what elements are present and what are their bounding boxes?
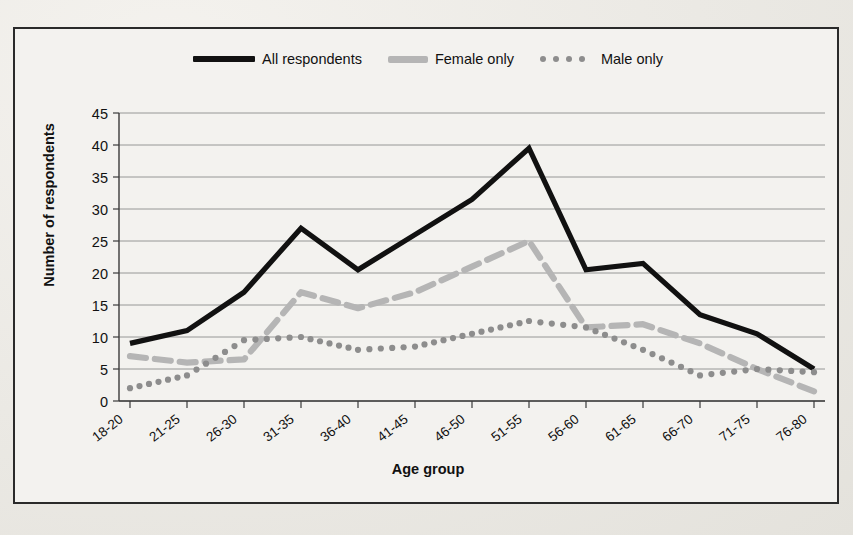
data-point-dot bbox=[526, 318, 532, 324]
data-point-dot bbox=[743, 367, 749, 373]
data-point-dot bbox=[241, 337, 247, 343]
data-point-dot bbox=[222, 349, 228, 355]
data-point-dot bbox=[687, 368, 693, 374]
x-tick-label: 41-45 bbox=[374, 412, 410, 445]
data-point-dot bbox=[412, 344, 418, 350]
x-tick-label: 36-40 bbox=[317, 412, 353, 445]
data-point-dot bbox=[193, 366, 199, 372]
data-point-dot bbox=[212, 355, 218, 361]
y-tick-label: 20 bbox=[92, 266, 108, 282]
data-point-dot bbox=[174, 374, 180, 380]
x-tick-label: 71-75 bbox=[716, 412, 752, 445]
data-point-dot bbox=[155, 379, 161, 385]
data-point-dot bbox=[478, 329, 484, 335]
data-point-dot bbox=[184, 372, 190, 378]
data-point-dot bbox=[583, 324, 589, 330]
data-point-dot bbox=[572, 323, 578, 329]
data-point-dot bbox=[231, 343, 237, 349]
data-point-dot bbox=[287, 335, 293, 341]
data-point-dot bbox=[431, 339, 437, 345]
data-point-dot bbox=[298, 334, 304, 340]
data-point-dot bbox=[275, 335, 281, 341]
data-point-dot bbox=[326, 340, 332, 346]
y-tick-label: 15 bbox=[92, 298, 108, 314]
data-point-dot bbox=[203, 361, 209, 367]
data-point-dot bbox=[592, 328, 598, 334]
data-point-dot bbox=[469, 331, 475, 337]
data-point-dot bbox=[507, 322, 513, 328]
data-point-dot bbox=[516, 320, 522, 326]
x-tick-label: 46-50 bbox=[431, 412, 467, 445]
data-point-dot bbox=[165, 377, 171, 383]
data-point-dot bbox=[252, 336, 258, 342]
data-point-dot bbox=[389, 345, 395, 351]
data-point-dot bbox=[630, 343, 636, 349]
x-tick-label: 51-55 bbox=[488, 412, 524, 445]
data-point-dot bbox=[777, 367, 783, 373]
data-point-dot bbox=[264, 336, 270, 342]
data-point-dot bbox=[136, 383, 142, 389]
x-tick-label: 21-25 bbox=[146, 412, 182, 445]
data-point-dot bbox=[754, 366, 760, 372]
x-tick-label: 76-80 bbox=[773, 412, 809, 445]
data-point-dot bbox=[450, 335, 456, 341]
x-tick-label: 61-65 bbox=[602, 412, 638, 445]
data-point-dot bbox=[731, 368, 737, 374]
x-tick-label: 18-20 bbox=[89, 412, 125, 445]
y-tick-label: 35 bbox=[92, 170, 108, 186]
data-point-dot bbox=[317, 338, 323, 344]
data-point-dot bbox=[307, 336, 313, 342]
y-tick-label: 0 bbox=[100, 394, 108, 410]
data-point-dot bbox=[421, 341, 427, 347]
y-tick-label: 45 bbox=[92, 106, 108, 122]
data-point-dot bbox=[549, 320, 555, 326]
data-point-dot bbox=[611, 336, 617, 342]
data-point-dot bbox=[146, 381, 152, 387]
data-point-dot bbox=[602, 332, 608, 338]
data-point-dot bbox=[336, 342, 342, 348]
data-point-dot bbox=[459, 333, 465, 339]
data-point-dot bbox=[345, 345, 351, 351]
data-point-dot bbox=[127, 385, 133, 391]
data-point-dot bbox=[355, 347, 361, 353]
data-point-dot bbox=[811, 369, 817, 375]
x-tick-label: 26-30 bbox=[203, 412, 239, 445]
data-point-dot bbox=[649, 351, 655, 357]
data-point-dot bbox=[560, 322, 566, 328]
y-tick-label: 40 bbox=[92, 138, 108, 154]
data-point-dot bbox=[401, 344, 407, 350]
data-point-dot bbox=[366, 346, 372, 352]
x-tick-label: 66-70 bbox=[659, 412, 695, 445]
y-tick-label: 25 bbox=[92, 234, 108, 250]
y-tick-label: 10 bbox=[92, 330, 108, 346]
data-point-dot bbox=[659, 355, 665, 361]
data-point-dot bbox=[765, 367, 771, 373]
data-point-dot bbox=[697, 372, 703, 378]
data-point-dot bbox=[621, 339, 627, 345]
data-point-dot bbox=[378, 345, 384, 351]
chart-frame: All respondents Female only Male only Nu… bbox=[13, 27, 839, 504]
data-point-dot bbox=[640, 347, 646, 353]
data-point-dot bbox=[440, 337, 446, 343]
line-chart-svg: 05101520253035404518-2021-2526-3031-3536… bbox=[15, 29, 841, 506]
data-point-dot bbox=[668, 360, 674, 366]
data-point-dot bbox=[788, 368, 794, 374]
data-point-dot bbox=[497, 324, 503, 330]
data-point-dot bbox=[708, 371, 714, 377]
data-point-dot bbox=[800, 368, 806, 374]
data-point-dot bbox=[537, 319, 543, 325]
plot-area: Number of respondents Age group 05101520… bbox=[15, 29, 841, 506]
data-point-dot bbox=[678, 364, 684, 370]
x-tick-label: 31-35 bbox=[260, 412, 296, 445]
data-point-dot bbox=[488, 326, 494, 332]
data-point-dot bbox=[720, 370, 726, 376]
x-tick-label: 56-60 bbox=[545, 412, 581, 445]
y-tick-label: 5 bbox=[100, 362, 108, 378]
y-tick-label: 30 bbox=[92, 202, 108, 218]
